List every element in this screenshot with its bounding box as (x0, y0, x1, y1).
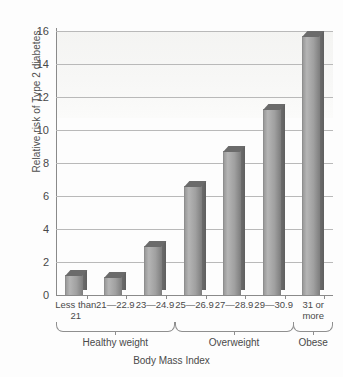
x-axis-title: Body Mass Index (0, 355, 343, 366)
bar-front-face (302, 36, 320, 295)
plot-area: 0246810121416 (56, 31, 333, 295)
bar-chart-figure: Relative risk of Type 2 diabetes 0246810… (0, 0, 343, 377)
bracket-line (293, 322, 333, 332)
gridline-16: 16 (56, 31, 333, 32)
bracket-line (175, 322, 294, 332)
bar (263, 109, 285, 295)
bar-front-face (263, 109, 281, 295)
bar-front-face (184, 186, 202, 295)
bar (104, 277, 126, 295)
y-tick-label: 4 (43, 223, 49, 235)
x-category-label: 31 or more (289, 299, 337, 321)
y-tick-label: 12 (37, 91, 49, 103)
group-bracket: Obese (293, 322, 333, 348)
gridline-0: 0 (56, 295, 333, 296)
bar-front-face (104, 277, 122, 295)
bracket-line (56, 322, 175, 332)
y-axis-line (56, 28, 57, 295)
bar (302, 36, 324, 295)
bar (184, 186, 206, 295)
gridline-10: 10 (56, 130, 333, 131)
y-tick-label: 2 (43, 256, 49, 268)
bar-front-face (223, 151, 241, 295)
y-tick-label: 16 (37, 25, 49, 37)
bar (65, 275, 87, 295)
group-bracket: Healthy weight (56, 322, 175, 348)
group-label: Obese (293, 337, 333, 348)
gridline-8: 8 (56, 163, 333, 164)
gridline-12: 12 (56, 97, 333, 98)
bar-front-face (144, 246, 162, 296)
bar (223, 151, 245, 295)
y-tick-label: 6 (43, 190, 49, 202)
bar (144, 246, 166, 296)
y-tick-label: 8 (43, 157, 49, 169)
gridline-14: 14 (56, 64, 333, 65)
y-tick-label: 10 (37, 124, 49, 136)
y-tick-label: 14 (37, 58, 49, 70)
group-label: Overweight (175, 337, 294, 348)
plot-background-tint (56, 31, 333, 118)
bar-front-face (65, 275, 83, 295)
group-bracket: Overweight (175, 322, 294, 348)
group-label: Healthy weight (56, 337, 175, 348)
